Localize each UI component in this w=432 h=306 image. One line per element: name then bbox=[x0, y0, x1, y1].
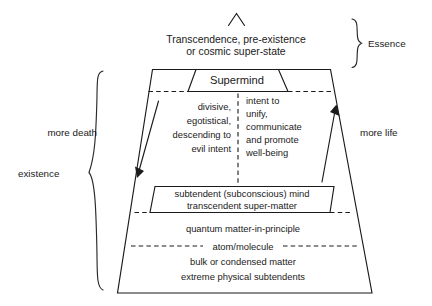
more-death-label: more death bbox=[47, 127, 97, 138]
more-life-column: intent to unify, communicate and promote… bbox=[245, 95, 302, 158]
existence-label: existence bbox=[18, 168, 60, 179]
death-line-4: evil intent bbox=[191, 143, 231, 154]
atom-molecule-divider: atom/molecule bbox=[131, 241, 358, 252]
apex-line-1: Transcendence, pre-existence bbox=[166, 34, 306, 45]
apex-line-2: or cosmic super-state bbox=[186, 46, 286, 57]
life-line-4: and promote bbox=[246, 134, 299, 145]
bulk-matter-line: bulk or condensed matter bbox=[190, 256, 296, 267]
life-line-3: communicate bbox=[246, 121, 302, 132]
more-life-arrow bbox=[322, 105, 340, 183]
death-line-1: divisive, bbox=[198, 101, 231, 112]
life-line-1: intent to bbox=[246, 95, 279, 106]
quantum-matter-line: quantum matter-in-principle bbox=[186, 223, 300, 234]
extreme-subtendents-line: extreme physical subtendents bbox=[181, 271, 305, 282]
matter-band: quantum matter-in-principle atom/molecul… bbox=[131, 223, 358, 282]
subtendent-line-1: subtendent (subconscious) mind bbox=[175, 188, 310, 199]
existence-brace: existence bbox=[18, 71, 103, 290]
death-line-2: egotistical, bbox=[187, 115, 231, 126]
life-line-2: unify, bbox=[246, 108, 268, 119]
atom-molecule-label: atom/molecule bbox=[213, 241, 274, 252]
more-death-arrow bbox=[135, 101, 159, 178]
subtendent-line-2: transcendent super-matter bbox=[187, 200, 297, 211]
diagram-canvas: Transcendence, pre-existence or cosmic s… bbox=[0, 0, 432, 306]
essence-label: Essence bbox=[368, 38, 406, 49]
apex-text-group: Transcendence, pre-existence or cosmic s… bbox=[166, 34, 306, 57]
supermind-box: Supermind bbox=[188, 70, 288, 92]
more-life-label: more life bbox=[360, 127, 398, 138]
supermind-label: Supermind bbox=[210, 74, 264, 86]
pyramid-diagram: Transcendence, pre-existence or cosmic s… bbox=[0, 0, 432, 306]
more-death-column: divisive, egotistical, descending to evi… bbox=[173, 101, 232, 154]
life-line-5: well-being bbox=[245, 147, 288, 158]
death-line-3: descending to bbox=[173, 129, 231, 140]
subtendent-band-box: subtendent (subconscious) mind transcend… bbox=[150, 187, 334, 213]
chevron-up-icon bbox=[229, 14, 245, 26]
essence-brace: Essence bbox=[352, 19, 406, 68]
